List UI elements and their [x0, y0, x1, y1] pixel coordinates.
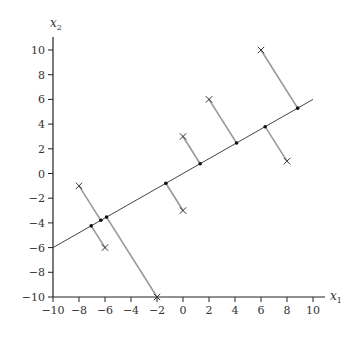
y-tick-label: 0	[38, 168, 45, 181]
projection-segment	[91, 226, 105, 248]
projection-segment	[107, 217, 157, 297]
y-tick-label: 6	[38, 93, 45, 106]
x-tick-label: −2	[149, 304, 165, 317]
projection-segments	[79, 50, 298, 297]
x-tick-label: −8	[71, 304, 87, 317]
y-tick-label: −2	[29, 192, 45, 205]
data-point-marker	[258, 47, 264, 53]
y-tick-label: 4	[38, 118, 45, 131]
projection-segment	[261, 50, 298, 108]
projection-dot	[296, 106, 300, 110]
x-tick-label: 2	[206, 304, 213, 317]
projection-dot	[105, 215, 109, 219]
projection-dot	[235, 141, 239, 145]
x-tick-label: −6	[97, 304, 113, 317]
x-tick-label: −10	[41, 304, 64, 317]
y-tick-label: −8	[29, 266, 45, 279]
x-axis-label: x1	[330, 289, 342, 305]
projection-dot	[99, 219, 103, 223]
y-tick-label: 2	[38, 143, 45, 156]
projection-dot	[89, 224, 93, 228]
y-tick-label: −4	[29, 217, 45, 230]
x-tick-label: 8	[284, 304, 291, 317]
y-axis-label: x2	[50, 16, 62, 32]
y-tick-label: 8	[38, 69, 45, 82]
y-tick-label: −6	[29, 242, 45, 255]
y-tick-label: 10	[31, 44, 45, 57]
x-tick-label: 0	[180, 304, 187, 317]
data-point-marker	[76, 183, 82, 189]
y-tick-label: −10	[22, 291, 45, 304]
x-tick-label: 10	[306, 304, 320, 317]
projection-segment	[166, 183, 183, 210]
projection-segment	[183, 136, 200, 163]
data-point-marker	[206, 96, 212, 102]
projection-dot	[164, 181, 168, 185]
projection-dot	[263, 125, 267, 129]
x-tick-label: −4	[123, 304, 139, 317]
projection-dot	[198, 162, 202, 166]
projection-segment	[265, 127, 287, 161]
data-point-marker	[102, 244, 108, 250]
markers	[76, 47, 300, 300]
data-point-marker	[284, 158, 290, 164]
chart: −10−8−6−4−20246810−10−8−6−4−20246810 x1 …	[0, 0, 359, 340]
projection-segment	[209, 99, 237, 143]
x-tick-label: 6	[258, 304, 265, 317]
x-tick-label: 4	[232, 304, 239, 317]
projection-segment	[79, 186, 101, 220]
data-point-marker	[180, 207, 186, 213]
data-point-marker	[180, 133, 186, 139]
